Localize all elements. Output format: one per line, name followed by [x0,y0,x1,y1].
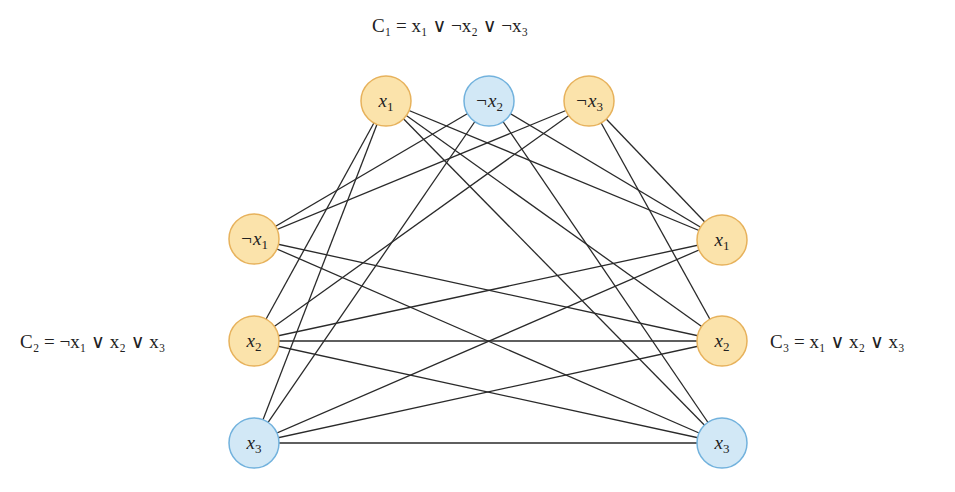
literal-node-c3a: x1 [697,215,747,265]
edge-c1c-c3a [589,101,722,240]
literal-node-c2a: ¬x1 [229,214,279,264]
clause-label-c3: C₃ = x₁ ∨ x₂ ∨ x₃ [770,330,905,353]
edge-c1a-c2c [254,101,386,443]
clause-text: C₂ = ¬x₁ ∨ x₂ ∨ x₃ [20,331,165,352]
edge-c1c-c3b [589,101,722,341]
clause-label-c1: C₁ = x₁ ∨ ¬x₂ ∨ ¬x₃ [372,14,528,37]
clause-text: C₃ = x₁ ∨ x₂ ∨ x₃ [770,331,905,352]
literal-node-c1a: x1 [361,76,411,126]
literal-node-c1b: ¬x2 [464,76,514,126]
edge-c1b-c3a [489,101,722,240]
node-layer: x1¬x2¬x3¬x1x2x3x1x2x3 [229,76,747,468]
literal-node-c3b: x2 [697,316,747,366]
literal-node-c1c: ¬x3 [564,76,614,126]
clique-graph: x1¬x2¬x3¬x1x2x3x1x2x3 [0,0,955,492]
clause-label-c2: C₂ = ¬x₁ ∨ x₂ ∨ x₃ [20,330,165,353]
literal-node-c2c: x3 [229,418,279,468]
clause-text: C₁ = x₁ ∨ ¬x₂ ∨ ¬x₃ [372,15,528,36]
edge-c1a-c2b [254,101,386,341]
literal-node-c3c: x3 [697,418,747,468]
edge-c1c-c2a [254,101,589,239]
edge-c1a-c3a [386,101,722,240]
edge-c1a-c3c [386,101,722,443]
literal-node-c2b: x2 [229,316,279,366]
edge-layer [254,101,722,443]
